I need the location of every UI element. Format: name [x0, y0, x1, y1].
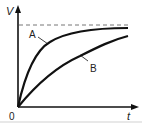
curve-b-label: B	[90, 63, 97, 74]
bottom-strip	[0, 121, 142, 123]
leader-line-b	[80, 55, 88, 61]
x-axis	[18, 104, 139, 110]
velocity-time-diagram: V t 0 A B	[0, 0, 142, 123]
y-axis-arrow-icon	[15, 5, 21, 13]
curve-a-label: A	[29, 29, 36, 40]
diagram-canvas: V t 0 A B	[0, 0, 142, 123]
y-axis	[15, 5, 21, 107]
y-axis-label: V	[6, 5, 15, 17]
curve-b	[18, 36, 128, 107]
x-axis-arrow-icon	[131, 104, 139, 110]
leader-line-a	[38, 37, 48, 44]
